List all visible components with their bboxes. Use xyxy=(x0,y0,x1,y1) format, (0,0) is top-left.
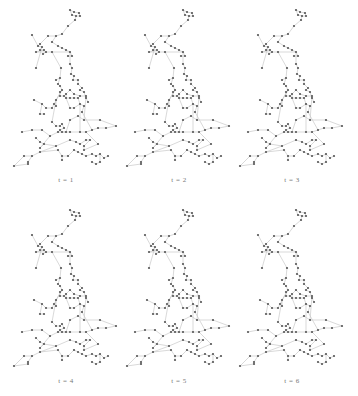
graph-node xyxy=(152,141,154,143)
graph-node xyxy=(69,119,71,121)
graph-node xyxy=(198,339,200,341)
graph-node xyxy=(148,337,150,339)
graph-node xyxy=(192,143,194,145)
graph-node xyxy=(31,234,33,236)
graph-node xyxy=(174,247,176,249)
graph-edge xyxy=(153,36,161,44)
graph-node xyxy=(311,95,313,97)
graph-node xyxy=(95,355,97,357)
graph-node xyxy=(186,349,188,351)
graph-node xyxy=(172,295,174,297)
graph-node xyxy=(69,131,71,133)
graph-node xyxy=(39,151,41,153)
graph-node xyxy=(83,105,85,107)
graph-node xyxy=(60,267,62,269)
graph-node xyxy=(155,53,157,55)
graph-node xyxy=(61,359,63,361)
graph-node xyxy=(39,243,41,245)
graph-node xyxy=(182,63,184,65)
graph-node xyxy=(59,85,61,87)
graph-node xyxy=(321,155,323,157)
graph-node xyxy=(156,313,158,315)
graph-node xyxy=(172,129,174,131)
graph-node xyxy=(325,319,327,321)
graph-node xyxy=(300,219,302,221)
graph-node xyxy=(144,234,146,236)
graph-node xyxy=(172,77,174,79)
graph-node xyxy=(39,351,41,353)
graph-node xyxy=(59,325,61,327)
graph-node xyxy=(81,311,83,313)
graph-node xyxy=(285,125,287,127)
graph-node xyxy=(212,119,214,121)
graph-node xyxy=(174,89,176,91)
graph-node xyxy=(190,315,192,317)
graph-node xyxy=(220,355,222,357)
graph-edge xyxy=(181,220,188,226)
network-panel xyxy=(226,200,346,390)
graph-node xyxy=(283,245,285,247)
graph-node xyxy=(182,51,184,53)
graph-node xyxy=(41,129,43,131)
graph-node xyxy=(107,155,109,157)
graph-node xyxy=(166,103,168,105)
graph-node xyxy=(178,131,180,133)
graph-node xyxy=(185,79,187,81)
graph-node xyxy=(212,361,214,363)
graph-edge xyxy=(52,252,61,268)
graph-node xyxy=(59,125,61,127)
graph-node xyxy=(172,277,174,279)
graph-edge xyxy=(145,35,151,46)
panel-label: t = 4 xyxy=(46,377,86,385)
graph-edge xyxy=(32,352,40,356)
graph-node xyxy=(69,319,71,321)
graph-node xyxy=(188,341,190,343)
graph-node xyxy=(180,355,182,357)
graph-edge xyxy=(42,130,50,136)
network-graph xyxy=(113,0,233,175)
graph-node xyxy=(281,35,283,37)
graph-node xyxy=(183,73,185,75)
graph-node xyxy=(191,212,193,214)
graph-node xyxy=(148,267,150,269)
graph-node xyxy=(299,107,301,109)
graph-node xyxy=(166,303,168,305)
graph-node xyxy=(168,79,170,81)
graph-node xyxy=(204,129,206,131)
graph-node xyxy=(281,105,283,107)
graph-edge xyxy=(62,26,68,34)
graph-node xyxy=(277,51,279,53)
graph-node xyxy=(305,289,307,291)
graph-edge xyxy=(173,268,174,278)
graph-edge xyxy=(181,350,187,356)
graph-node xyxy=(182,263,184,265)
graph-node xyxy=(261,267,263,269)
graph-node xyxy=(71,255,73,257)
graph-node xyxy=(67,25,69,27)
graph-edge xyxy=(66,120,70,132)
graph-node xyxy=(55,279,57,281)
graph-node xyxy=(81,153,83,155)
graph-edge xyxy=(266,236,274,244)
graph-edge xyxy=(82,112,92,130)
graph-node xyxy=(182,9,184,11)
graph-edge xyxy=(157,144,169,146)
graph-node xyxy=(323,327,325,329)
graph-node xyxy=(301,15,303,17)
graph-node xyxy=(67,255,69,257)
graph-node xyxy=(317,353,319,355)
graph-node xyxy=(65,131,67,133)
graph-edge xyxy=(40,136,50,148)
graph-node xyxy=(192,131,194,133)
graph-node xyxy=(287,155,289,157)
graph-node xyxy=(61,89,63,91)
graph-node xyxy=(57,331,59,333)
graph-node xyxy=(267,329,269,331)
graph-node xyxy=(41,103,43,105)
graph-node xyxy=(261,337,263,339)
graph-node xyxy=(81,287,83,289)
graph-node xyxy=(148,137,150,139)
graph-node xyxy=(291,297,293,299)
graph-node xyxy=(85,155,87,157)
graph-edge xyxy=(173,68,174,78)
